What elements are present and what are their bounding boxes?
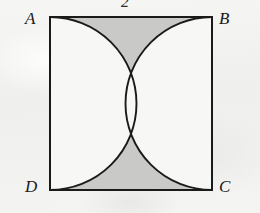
vertex-label-a: A (25, 10, 35, 27)
vertex-label-d: D (25, 178, 37, 195)
vertex-label-b: B (219, 10, 229, 27)
geometry-figure: A B C D 2 (0, 0, 260, 213)
side-length-label-top: 2 (121, 0, 129, 10)
vertex-label-c: C (219, 178, 230, 195)
